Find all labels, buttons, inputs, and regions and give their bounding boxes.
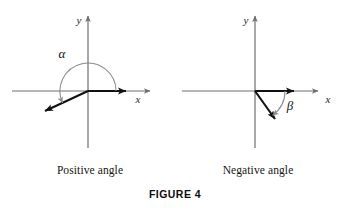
y-axis-label-positive: y <box>76 14 82 26</box>
figure-number-label: FIGURE 4 <box>105 188 245 200</box>
x-axis-label-positive: x <box>135 93 141 105</box>
terminal-side-ray-negative <box>255 91 275 119</box>
panel-positive-angle: x y α <box>12 14 150 148</box>
angle-label-beta: β <box>286 98 294 113</box>
terminal-side-ray-positive <box>45 91 88 111</box>
angle-arc-negative <box>273 91 285 115</box>
caption-negative-angle: Negative angle <box>188 164 328 176</box>
y-axis-label-negative: y <box>243 14 249 26</box>
figure-4: x y α x y β Positive angle Negati <box>0 0 350 211</box>
figure-diagram-svg: x y α x y β <box>0 0 350 211</box>
caption-positive-angle: Positive angle <box>20 164 160 176</box>
x-axis-label-negative: x <box>325 93 331 105</box>
panel-negative-angle: x y β <box>182 14 331 148</box>
angle-label-alpha: α <box>59 46 67 61</box>
